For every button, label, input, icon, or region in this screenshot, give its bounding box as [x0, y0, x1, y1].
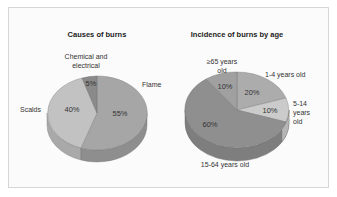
label-over-65-2: old [217, 67, 226, 74]
pct-5-14: 10% [262, 106, 277, 115]
pct-chemical: 5% [86, 79, 97, 88]
pct-scalds: 40% [64, 105, 79, 114]
label-chemical-1: Chemical and [65, 53, 108, 60]
pct-15-64: 60% [202, 120, 217, 129]
label-5-14-2: years [293, 109, 311, 117]
label-1-4: 1-4 years old [265, 71, 306, 79]
label-scalds: Scalds [20, 106, 42, 113]
pct-1-4: 20% [244, 88, 259, 97]
label-15-64: 15-64 years old [201, 161, 249, 169]
label-chemical-2: electrical [72, 62, 100, 69]
chart-title-causes: Causes of burns [68, 30, 127, 39]
label-5-14-1: 5-14 [293, 100, 307, 107]
label-5-14-3: old [293, 118, 302, 125]
charts-canvas: Causes of burns 55% 40% 5% Chemical and … [0, 0, 337, 197]
label-flame: Flame [142, 81, 162, 88]
pct-flame: 55% [112, 109, 127, 118]
label-over-65-1: ≥65 years [207, 58, 238, 66]
pie-incidence-by-age: Incidence of burns by age 20% 10% 60% 10… [185, 30, 311, 169]
pct-over-65: 10% [217, 82, 232, 91]
chart-title-incidence: Incidence of burns by age [191, 30, 284, 39]
pie-causes-of-burns: Causes of burns 55% 40% 5% Chemical and … [20, 30, 162, 162]
